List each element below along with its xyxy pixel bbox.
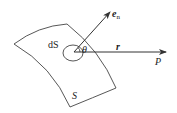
- normal-vector-label: en: [112, 8, 120, 21]
- surface-outline: [14, 24, 116, 107]
- surface-element-label: dS: [48, 39, 59, 50]
- normal-vector-arrow: [74, 12, 110, 52]
- surface-element-ellipse: [63, 45, 83, 61]
- surface-label: S: [72, 90, 77, 101]
- angle-arc: [78, 48, 80, 53]
- angle-label: θ: [82, 44, 87, 55]
- solid-angle-diagram: dS θ en r P S: [0, 0, 177, 113]
- normal-vector-subscript: n: [116, 13, 120, 21]
- point-label: P: [154, 56, 161, 67]
- position-vector-label: r: [116, 41, 120, 52]
